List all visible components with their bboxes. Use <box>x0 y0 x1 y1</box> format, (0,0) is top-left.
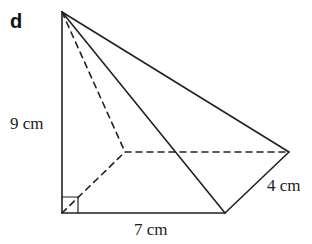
pyramid-figure <box>0 0 312 244</box>
part-label: d <box>10 10 22 33</box>
base-length-label: 7 cm <box>134 220 168 240</box>
height-label: 9 cm <box>10 114 44 134</box>
edge-apex-to-front-right <box>62 12 225 213</box>
hidden-edge-base-left <box>62 152 125 213</box>
hidden-edge-apex-to-back-left <box>62 12 125 152</box>
pyramid-diagram: d 9 cm 7 cm 4 cm <box>0 0 312 244</box>
base-width-label: 4 cm <box>267 176 301 196</box>
edge-apex-to-back-right <box>62 12 289 152</box>
